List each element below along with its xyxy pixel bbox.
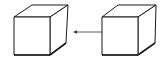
arrowhead-icon bbox=[73, 30, 77, 33]
cube-left-front-face bbox=[14, 17, 50, 55]
arrow-right-to-left bbox=[73, 30, 102, 33]
cube-right-front-face bbox=[102, 17, 138, 55]
diagram-canvas bbox=[0, 0, 164, 64]
cube-left bbox=[14, 5, 68, 55]
cube-right bbox=[102, 5, 156, 55]
